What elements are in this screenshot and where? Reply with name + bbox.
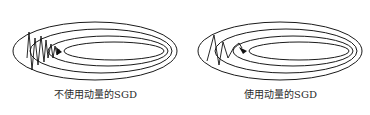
contour-ellipses — [13, 22, 177, 80]
arrow-head-icon — [239, 47, 247, 54]
panel-sgd-without-momentum: 不使用动量的SGD — [0, 0, 185, 115]
caption-without-momentum: 不使用动量的SGD — [3, 86, 188, 101]
arrow-head-icon — [56, 47, 62, 55]
oscillating-path — [27, 32, 59, 70]
caption-with-momentum: 使用动量的SGD — [188, 86, 370, 101]
panel-sgd-with-momentum: 使用动量的SGD — [185, 0, 370, 115]
contour-ellipses — [198, 22, 362, 80]
